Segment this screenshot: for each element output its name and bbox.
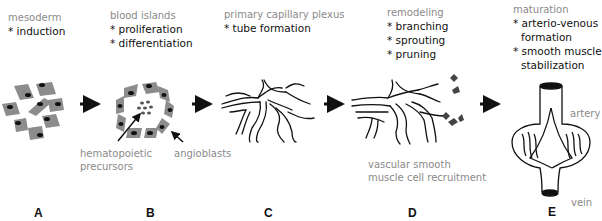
annotation-muscle-cell-recruitment: muscle cell recruitment [368, 171, 486, 184]
stage-a-bullet-1: * induction [8, 25, 65, 38]
stage-e-bullet-1-cont: formation [521, 31, 572, 44]
panel-label-b: B [146, 206, 155, 220]
stage-d-bullet-1: * branching [387, 20, 448, 33]
stage-e-bullet-2-cont: stabilization [521, 59, 585, 72]
capillary-plexus [222, 80, 314, 142]
remodeled-network [352, 80, 444, 144]
mesoderm-cells [2, 82, 64, 140]
hematopoietic-precursors [137, 101, 153, 115]
panel-label-c: C [264, 206, 273, 220]
annotation-vein: vein [571, 196, 592, 209]
panel-label-d: D [408, 206, 417, 220]
stage-c-title: primary capillary plexus [224, 9, 345, 21]
stage-e-bullet-1: * arterio-venous [513, 17, 598, 30]
stage-e-bullet-2: * smooth muscle [513, 45, 602, 58]
stage-b-title: blood islands [110, 10, 176, 22]
annotation-precursors: precursors [80, 160, 133, 173]
artery-vein-structure [512, 83, 590, 196]
stage-a-title: mesoderm [8, 12, 61, 24]
stage-d-bullet-3: * pruning [387, 48, 436, 61]
stage-d-bullet-2: * sprouting [387, 34, 445, 47]
annotation-vascular-smooth: vascular smooth [368, 158, 451, 171]
panel-label-e: E [548, 205, 556, 219]
smooth-muscle-cells [442, 74, 464, 126]
pointer-angioblasts [172, 132, 183, 142]
blood-island-ring [116, 82, 174, 138]
annotation-angioblasts: angioblasts [174, 147, 231, 160]
stage-b-bullet-1: * proliferation [110, 23, 183, 36]
stage-c-bullet-1: * tube formation [224, 22, 311, 35]
stage-e-title: maturation [513, 4, 569, 16]
stage-b-bullet-2: * differentiation [110, 37, 193, 50]
panel-label-a: A [34, 206, 43, 220]
stage-d-title: remodeling [387, 7, 444, 19]
annotation-artery: artery [570, 107, 600, 120]
annotation-hematopoietic: hematopoietic [80, 147, 152, 160]
